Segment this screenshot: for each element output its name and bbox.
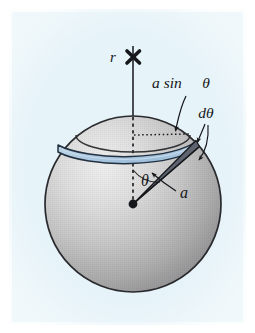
label-ring-radius: a sin θ xyxy=(152,74,210,91)
svg-text:a sin: a sin xyxy=(152,74,182,91)
label-polar-angle: θ xyxy=(141,172,149,189)
svg-text:θ: θ xyxy=(202,74,210,91)
figure-container: r a sin θ dθ θ a xyxy=(0,0,255,333)
sphere-shell-diagram: r a sin θ dθ θ a xyxy=(0,0,255,333)
label-angle-element: dθ xyxy=(198,104,214,121)
label-sphere-radius: a xyxy=(180,184,188,201)
label-field-point-r: r xyxy=(110,49,116,65)
center-dot-icon xyxy=(129,200,138,209)
